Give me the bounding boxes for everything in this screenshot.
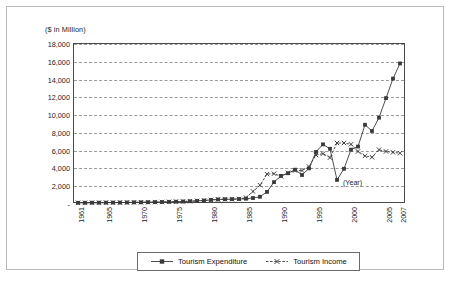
y-axis-tick-label: 10,000 <box>48 111 70 120</box>
chart-legend: Tourism ExpenditureTourism Income <box>137 252 360 271</box>
data-point-marker <box>258 195 262 199</box>
data-point-marker <box>251 196 255 200</box>
legend-label: Tourism Income <box>293 257 347 266</box>
x-axis-tick-label: 1975 <box>176 207 184 223</box>
legend-x-marker-icon <box>265 257 289 266</box>
y-axis-tick-label: 4,000 <box>52 164 70 173</box>
x-axis-tick-label: 2005 <box>386 207 394 223</box>
y-axis-tick-label: 2,000 <box>52 182 70 191</box>
x-axis-tick-label: 2000 <box>351 207 359 223</box>
data-point-marker <box>363 154 367 158</box>
x-axis-tick-label: 1985 <box>246 207 254 223</box>
y-axis-unit-label: ($ in Million) <box>45 25 86 34</box>
y-axis-tick-label: 14,000 <box>48 75 70 84</box>
data-point-marker <box>321 142 325 146</box>
x-axis-unit-label: (Year) <box>343 179 362 187</box>
data-point-marker <box>391 150 395 154</box>
series-line-2 <box>78 143 400 203</box>
legend-item-2[interactable]: Tourism Income <box>265 257 347 266</box>
x-axis-tick-label: 1965 <box>106 207 114 223</box>
legend-item-1[interactable]: Tourism Expenditure <box>150 257 247 266</box>
y-axis-tick-label: 8,000 <box>52 128 70 137</box>
data-point-marker <box>349 148 353 152</box>
data-point-marker <box>272 180 276 184</box>
data-point-marker <box>356 149 360 153</box>
y-axis-tick-label: 6,000 <box>52 146 70 155</box>
data-point-marker <box>398 151 402 155</box>
y-axis-tick-label: 12,000 <box>48 93 70 102</box>
x-axis-tick-label: 1980 <box>211 207 219 223</box>
y-axis-tick-label: - <box>68 200 70 209</box>
x-axis-tick-label: 1990 <box>281 207 289 223</box>
data-point-marker <box>377 116 381 120</box>
x-axis-tick-label: 1995 <box>316 207 324 223</box>
data-point-marker <box>251 189 255 193</box>
x-axis-tick-label: 1961 <box>78 207 86 223</box>
legend-label: Tourism Expenditure <box>178 257 247 266</box>
data-point-marker <box>384 96 388 100</box>
legend-square-marker-icon <box>150 257 174 266</box>
data-point-marker <box>349 142 353 146</box>
data-point-marker <box>370 155 374 159</box>
y-axis-tick-label: 18,000 <box>48 40 70 49</box>
data-point-marker <box>258 183 262 187</box>
x-axis-tick-label: 1970 <box>141 207 149 223</box>
data-point-marker <box>391 77 395 81</box>
data-point-marker <box>265 190 269 194</box>
figure-frame: ($ in Million) -2,0004,0006,0008,00010,0… <box>6 6 444 270</box>
y-axis-tick-label: 16,000 <box>48 57 70 66</box>
data-point-marker <box>342 167 346 171</box>
x-axis-tick-label: 2007 <box>400 207 408 223</box>
data-point-marker <box>398 62 402 66</box>
data-point-marker <box>328 147 332 151</box>
data-point-marker <box>363 123 367 127</box>
data-point-marker <box>335 178 339 182</box>
data-point-marker <box>356 145 360 149</box>
data-point-marker <box>300 173 304 177</box>
data-point-marker <box>370 129 374 133</box>
